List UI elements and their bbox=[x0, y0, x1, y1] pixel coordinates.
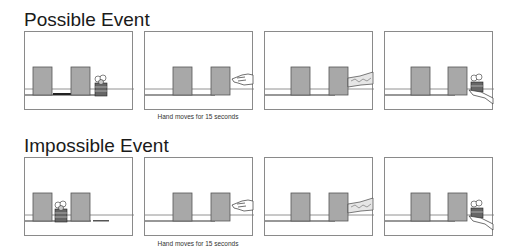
scene-toy-between-screens bbox=[25, 158, 134, 237]
screen-left bbox=[291, 67, 310, 95]
screen-right bbox=[448, 193, 467, 221]
gap-bar bbox=[53, 93, 71, 95]
scene-hand-enters bbox=[145, 158, 254, 237]
possible-panel-3 bbox=[264, 31, 373, 110]
screen-right bbox=[71, 193, 90, 221]
impossible-panel-4 bbox=[384, 157, 493, 236]
impossible-caption: Hand moves for 15 seconds bbox=[138, 240, 258, 248]
screen-right bbox=[448, 67, 467, 95]
impossible-panel-3 bbox=[264, 157, 373, 236]
hand-icon bbox=[232, 200, 253, 211]
screen-right bbox=[211, 193, 230, 221]
hand-icon bbox=[232, 74, 253, 85]
screen-left bbox=[33, 67, 52, 95]
scene-toy-right-of-screens bbox=[25, 32, 134, 111]
scene-arm-reaches bbox=[265, 158, 374, 237]
row-title-impossible-event: Impossible Event bbox=[24, 136, 169, 155]
scene-hand-enters bbox=[145, 32, 254, 111]
screen-left bbox=[173, 193, 192, 221]
screen-right bbox=[71, 67, 90, 95]
toy-icon bbox=[95, 75, 107, 96]
impossible-panel-2 bbox=[144, 157, 253, 236]
scene-hand-retrieves-toy bbox=[385, 32, 494, 111]
screen-left bbox=[173, 67, 192, 95]
possible-panel-1 bbox=[24, 31, 133, 110]
possible-caption: Hand moves for 15 seconds bbox=[138, 113, 258, 121]
arm-icon bbox=[348, 72, 373, 87]
impossible-panel-1 bbox=[24, 157, 133, 236]
screen-left bbox=[291, 193, 310, 221]
gap-bar-displaced bbox=[93, 220, 109, 222]
scene-hand-retrieves-toy bbox=[385, 158, 494, 237]
screen-left bbox=[33, 193, 52, 221]
screen-right bbox=[329, 193, 348, 221]
possible-panel-2 bbox=[144, 31, 253, 110]
toy-icon bbox=[55, 201, 67, 222]
arm-icon bbox=[348, 198, 373, 213]
screen-left bbox=[411, 67, 430, 95]
possible-panel-4 bbox=[384, 31, 493, 110]
screen-left bbox=[411, 193, 430, 221]
scene-arm-reaches bbox=[265, 32, 374, 111]
screen-right bbox=[211, 67, 230, 95]
row-title-possible-event: Possible Event bbox=[24, 10, 150, 29]
screen-right bbox=[329, 67, 348, 95]
